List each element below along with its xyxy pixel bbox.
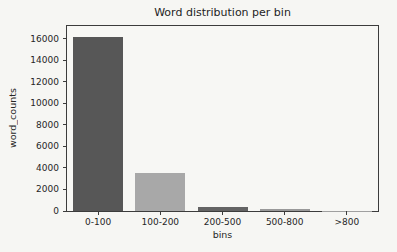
- y-tick-label: 12000: [30, 77, 59, 87]
- x-tick-mark: [284, 211, 285, 215]
- x-tick-label: 200-500: [204, 217, 242, 227]
- x-tick-mark: [98, 211, 99, 215]
- chart-title: Word distribution per bin: [66, 6, 379, 19]
- x-tick-mark: [346, 211, 347, 215]
- y-tick-mark: [63, 103, 67, 104]
- bar-0-100: [73, 37, 123, 211]
- x-tick-label: 0-100: [85, 217, 111, 227]
- y-tick-label: 2000: [36, 184, 59, 194]
- x-axis-label: bins: [66, 229, 379, 240]
- x-tick-label: >800: [335, 217, 360, 227]
- y-tick-mark: [63, 211, 67, 212]
- y-axis-label: word_counts: [7, 25, 18, 212]
- y-tick-mark: [63, 146, 67, 147]
- bar-100-200: [135, 173, 185, 211]
- y-tick-mark: [63, 38, 67, 39]
- y-tick-label: 14000: [30, 55, 59, 65]
- y-tick-mark: [63, 60, 67, 61]
- y-tick-mark: [63, 189, 67, 190]
- y-tick-mark: [63, 124, 67, 125]
- x-tick-label: 100-200: [141, 217, 179, 227]
- bar-chart-figure: Word distribution per bin 0-100100-20020…: [0, 0, 397, 252]
- y-tick-mark: [63, 81, 67, 82]
- y-tick-label: 10000: [30, 98, 59, 108]
- y-tick-label: 4000: [36, 163, 59, 173]
- x-tick-mark: [222, 211, 223, 215]
- x-tick-label: 500-800: [266, 217, 304, 227]
- y-tick-label: 6000: [36, 141, 59, 151]
- y-tick-label: 0: [53, 206, 59, 216]
- y-tick-label: 8000: [36, 120, 59, 130]
- y-tick-mark: [63, 167, 67, 168]
- x-tick-mark: [160, 211, 161, 215]
- plot-area: 0-100100-200200-500500-800>8000200040006…: [66, 25, 379, 212]
- y-tick-label: 16000: [30, 34, 59, 44]
